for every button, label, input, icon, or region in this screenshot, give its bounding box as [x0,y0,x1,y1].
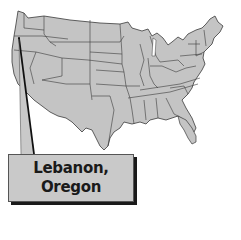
callout-city: Lebanon, [33,159,109,178]
callout-state: Oregon [41,178,101,197]
lake-michigan [152,38,156,56]
location-callout: Lebanon, Oregon [8,154,134,202]
location-marker [18,37,20,39]
